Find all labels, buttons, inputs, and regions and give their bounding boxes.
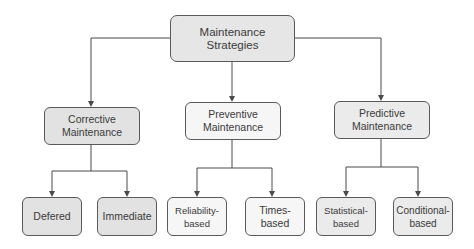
node-label: Corrective Maintenance [48,113,136,139]
node-defered: Defered [22,197,82,236]
node-preventive-maintenance: Preventive Maintenance [185,102,281,140]
node-label: Reliability-based [171,204,223,230]
node-label: Preventive Maintenance [189,108,277,134]
node-label: Defered [33,210,70,223]
node-label: Predictive Maintenance [338,107,426,133]
node-label: Immediate [102,210,151,223]
node-times-based: Times-based [245,197,305,236]
node-conditional-based: Conditional- based [393,197,453,236]
node-statistical-based: Statistical-based [316,197,376,236]
node-label: Statistical-based [320,204,372,230]
node-corrective-maintenance: Corrective Maintenance [44,107,140,145]
diagram-canvas: Maintenance Strategies Corrective Mainte… [0,0,474,249]
node-immediate: Immediate [97,197,157,236]
node-predictive-maintenance: Predictive Maintenance [334,101,430,139]
connector-root-predictive [295,38,381,98]
node-label: Times-based [249,204,301,230]
node-maintenance-strategies: Maintenance Strategies [170,15,295,62]
node-label: Maintenance Strategies [174,26,291,52]
node-label: Conditional- based [396,204,449,230]
connector-root-corrective [91,38,170,104]
node-reliability-based: Reliability-based [167,197,227,236]
